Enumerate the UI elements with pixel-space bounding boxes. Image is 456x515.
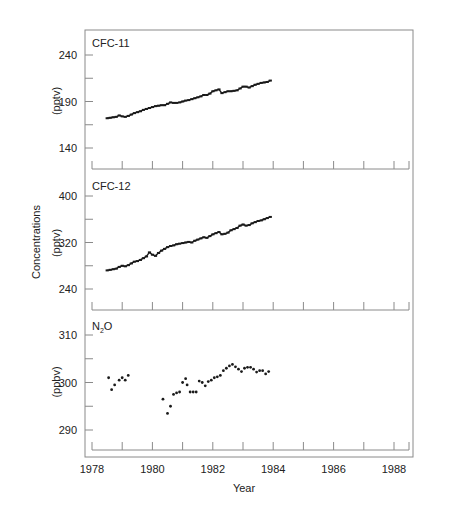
x-tick-label: 1984 — [261, 463, 285, 475]
panel-cfc-11: CFC-11140190240(pptv) — [50, 37, 409, 169]
panels: CFC-11140190240(pptv)CFC-12240320400(ppt… — [50, 37, 409, 450]
panel-n2o: N2O290300310(ppbv) — [50, 320, 409, 450]
data-series — [106, 80, 272, 120]
x-tick-label: 1978 — [80, 463, 104, 475]
y-tick-label: 400 — [59, 190, 77, 202]
x-axis-labels: 197819801982198419861988 — [80, 463, 406, 475]
x-tick-label: 1988 — [382, 463, 406, 475]
panel-cfc-12: CFC-12240320400(pptv) — [50, 180, 409, 310]
y-unit-label: (ppbv) — [50, 366, 62, 397]
data-series — [106, 216, 272, 271]
panel-title: N2O — [92, 320, 113, 334]
x-tick-label: 1986 — [321, 463, 345, 475]
y-tick-label: 290 — [59, 424, 77, 436]
y-axis-title: Concentrations — [30, 205, 42, 279]
panel-title: CFC-12 — [92, 180, 131, 192]
y-unit-label: (pptv) — [50, 87, 62, 115]
y-tick-label: 140 — [59, 142, 77, 154]
panel-title: CFC-11 — [92, 37, 130, 49]
data-series — [107, 363, 270, 415]
y-tick-label: 240 — [59, 283, 77, 295]
chart-figure: CFC-11140190240(pptv)CFC-12240320400(ppt… — [0, 0, 456, 515]
y-tick-label: 310 — [59, 329, 77, 341]
x-tick-label: 1980 — [140, 463, 164, 475]
x-axis-title: Year — [233, 482, 256, 494]
y-unit-label: (pptv) — [50, 229, 62, 257]
outer-frame — [85, 30, 413, 457]
y-tick-label: 240 — [59, 49, 77, 61]
x-tick-label: 1982 — [201, 463, 225, 475]
